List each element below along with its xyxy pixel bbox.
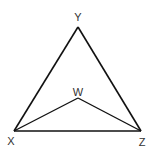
- triangle-diagram: Y W X Z: [0, 0, 153, 152]
- label-y: Y: [74, 11, 82, 23]
- label-z: Z: [139, 136, 146, 148]
- segment-xy: [14, 27, 78, 131]
- label-x: X: [7, 135, 15, 147]
- segment-yz: [78, 27, 141, 131]
- label-w: W: [73, 86, 84, 98]
